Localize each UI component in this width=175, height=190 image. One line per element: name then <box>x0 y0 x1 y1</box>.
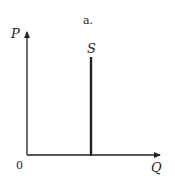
supply-chart: a. P Q 0 S <box>0 0 175 190</box>
chart-canvas: a. P Q 0 S <box>0 0 175 190</box>
panel-title: a. <box>83 14 93 27</box>
x-axis-label: Q <box>151 160 162 175</box>
y-axis-label: P <box>10 26 20 41</box>
origin-label: 0 <box>16 159 23 172</box>
supply-curve-label: S <box>87 41 96 56</box>
